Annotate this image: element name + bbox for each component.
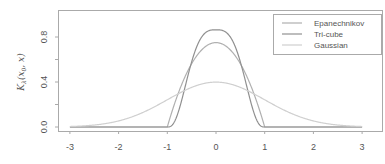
x-tick-label: -2 [115,142,123,152]
y-tick-label: 0.4 [39,76,49,89]
x-tick-label: 3 [360,142,365,152]
y-tick-label: 0.8 [39,31,49,44]
x-tick-label: 2 [311,142,316,152]
x-tick-label: -1 [163,142,171,152]
x-tick-label: -3 [66,142,74,152]
y-axis-label: Kλ(x0, x) [16,53,27,92]
curve-epanechnikov [70,43,362,127]
y-axis: 0.00.40.8 [39,31,58,134]
x-axis: -3-2-10123 [66,131,365,152]
legend-label: Gaussian [314,41,348,50]
legend: EpanechnikovTri-cubeGaussian [274,15,382,55]
legend-label: Tri-cube [314,30,344,39]
kernel-chart: -3-2-10123 0.00.40.8 Kλ(x0, x) Epanechni… [0,0,385,164]
curve-gaussian [70,82,362,126]
legend-label: Epanechnikov [314,19,364,28]
y-tick-label: 0.0 [39,121,49,134]
x-tick-label: 0 [213,142,218,152]
x-tick-label: 1 [262,142,267,152]
